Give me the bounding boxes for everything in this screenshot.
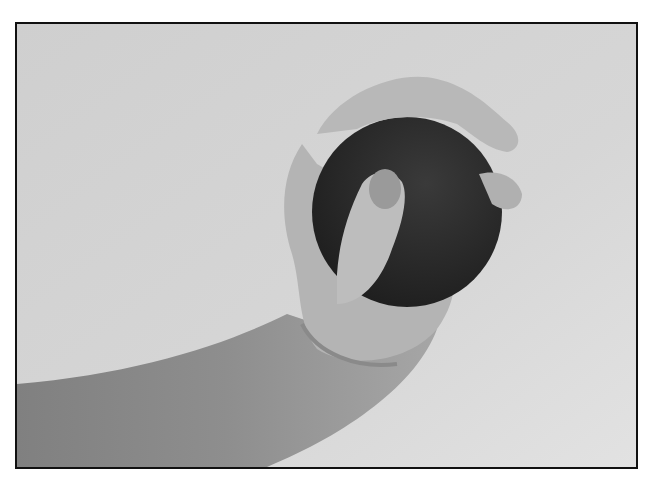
thumbnail xyxy=(369,169,401,209)
hand-ball-photo xyxy=(17,24,636,467)
photo-frame xyxy=(15,22,638,469)
